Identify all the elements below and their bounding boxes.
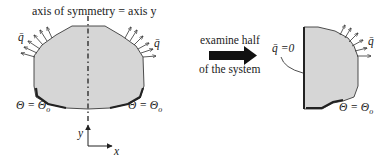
- transition-label-bottom: of the system: [199, 64, 260, 76]
- diagram-graphics: [0, 0, 392, 163]
- bc-label-right-text: Θ = Θ: [128, 99, 158, 111]
- bc-label-left: Θ = Θo: [16, 100, 50, 114]
- flux-label-half: q̄: [368, 36, 374, 48]
- symmetry-bc-label: q̄ =0: [272, 43, 294, 55]
- bc-label-right-sub: o: [158, 105, 162, 114]
- x-axis-label: x: [114, 146, 119, 158]
- bc-label-half: Θ = Θo: [339, 102, 373, 116]
- bc-label-half-sub: o: [369, 107, 373, 116]
- transition-label-top: examine half: [200, 35, 260, 47]
- bc-label-left-text: Θ = Θ: [16, 99, 46, 111]
- coordinate-axes: [88, 125, 112, 146]
- diagram-title: axis of symmetry = axis y: [32, 5, 156, 17]
- half-body-domain: [281, 27, 358, 109]
- full-body-domain: [34, 26, 144, 109]
- flux-label-left: q̄: [18, 32, 24, 44]
- flux-label-right: q̄: [154, 38, 160, 50]
- y-axis-label: y: [78, 128, 83, 140]
- bc-label-half-text: Θ = Θ: [339, 101, 369, 113]
- bc-label-right: Θ = Θo: [128, 100, 162, 114]
- symmetry-diagram: axis of symmetry = axis y q̄ q̄ Θ = Θo Θ…: [0, 0, 392, 163]
- bc-label-left-sub: o: [46, 105, 50, 114]
